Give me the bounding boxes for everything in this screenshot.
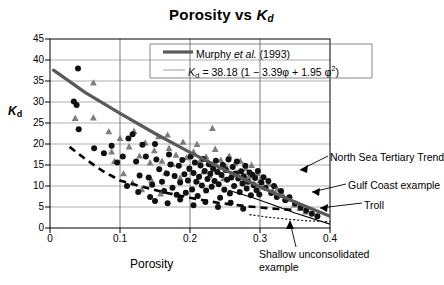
data-point-circle <box>203 188 209 194</box>
data-point-circle <box>192 160 198 166</box>
data-point-circle <box>165 200 171 206</box>
data-point-circle <box>198 162 204 168</box>
data-point-circle <box>309 211 315 217</box>
data-point-circle <box>205 176 211 182</box>
data-point-circle <box>255 168 261 174</box>
data-point-circle <box>219 172 225 178</box>
data-point-circle <box>186 165 192 171</box>
data-point-triangle <box>72 115 79 121</box>
murphy-fit-line <box>54 70 331 216</box>
data-point-circle <box>196 174 202 180</box>
data-point-triangle <box>136 152 143 158</box>
data-point-circle <box>74 102 80 108</box>
data-point-circle <box>226 157 232 163</box>
data-point-circle <box>181 171 187 177</box>
data-point-circle <box>261 174 267 180</box>
data-point-circle <box>256 191 262 197</box>
data-point-circle <box>75 65 81 71</box>
data-point-triangle <box>151 147 158 153</box>
data-point-triangle <box>90 114 97 120</box>
data-point-circle <box>153 157 159 163</box>
data-point-circle <box>152 198 158 204</box>
data-point-circle <box>179 157 185 163</box>
data-point-circle <box>240 181 246 187</box>
data-point-circle <box>156 166 162 172</box>
data-point-triangle <box>173 152 180 158</box>
data-point-triangle <box>166 145 173 151</box>
data-point-circle <box>177 180 183 186</box>
data-point-circle <box>101 150 107 156</box>
data-point-triangle <box>159 157 166 163</box>
data-point-circle <box>278 188 284 194</box>
data-point-circle <box>314 213 320 219</box>
data-point-circle <box>159 179 165 185</box>
data-point-circle <box>183 190 189 196</box>
data-point-circle <box>146 175 152 181</box>
data-point-triangle <box>120 170 127 176</box>
data-point-circle <box>139 142 145 148</box>
data-point-circle <box>124 183 130 189</box>
data-point-circle <box>242 163 248 169</box>
data-point-circle <box>164 170 170 176</box>
data-point-triangle <box>108 148 115 154</box>
data-point-circle <box>215 204 221 210</box>
data-point-circle <box>167 162 173 168</box>
data-point-circle <box>147 194 153 200</box>
data-point-circle <box>130 131 136 137</box>
data-point-circle <box>199 183 205 189</box>
data-point-circle <box>231 183 237 189</box>
data-point-circle <box>170 185 176 191</box>
data-point-circle <box>114 160 120 166</box>
data-point-circle <box>152 141 158 147</box>
data-point-circle <box>176 163 182 169</box>
data-point-circle <box>149 182 155 188</box>
data-point-circle <box>133 159 139 165</box>
data-point-circle <box>244 186 250 192</box>
data-point-triangle <box>90 79 97 85</box>
grid-vertical <box>120 39 260 228</box>
data-point-circle <box>217 195 223 201</box>
data-point-circle <box>172 173 178 179</box>
data-point-circle <box>135 189 141 195</box>
data-point-circle <box>265 178 271 184</box>
data-point-triangle <box>117 135 124 141</box>
data-point-triangle <box>180 139 187 145</box>
data-point-circle <box>76 126 82 132</box>
data-point-circle <box>191 202 197 208</box>
data-point-circle <box>234 159 240 165</box>
data-point-circle <box>191 170 197 176</box>
data-point-circle <box>189 186 195 192</box>
data-point-triangle <box>105 128 112 134</box>
data-point-circle <box>143 154 149 160</box>
data-point-triangle <box>209 125 216 131</box>
data-point-circle <box>216 181 222 187</box>
legend-box <box>150 44 372 78</box>
data-point-triangle <box>147 159 154 165</box>
data-point-triangle <box>164 131 171 137</box>
data-point-circle <box>166 152 172 158</box>
y-axis-ticks <box>45 39 50 228</box>
data-point-circle <box>202 168 208 174</box>
data-point-circle <box>271 183 277 189</box>
data-point-circle <box>137 173 143 179</box>
data-point-circle <box>120 154 126 160</box>
data-point-circle <box>209 184 215 190</box>
data-point-circle <box>185 178 191 184</box>
data-point-circle <box>221 187 227 193</box>
data-point-circle <box>230 164 236 170</box>
data-point-circle <box>252 175 258 181</box>
data-point-circle <box>91 145 97 151</box>
data-point-triangle <box>212 146 219 152</box>
data-point-circle <box>109 143 115 149</box>
